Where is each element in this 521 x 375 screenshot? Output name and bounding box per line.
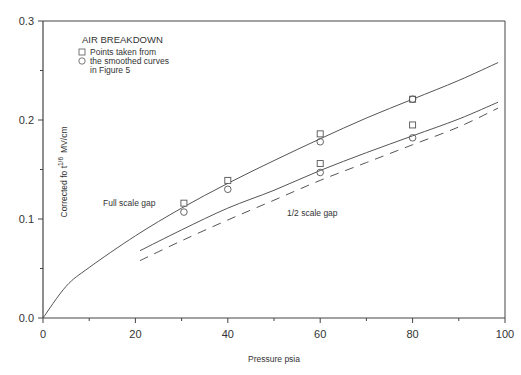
- data-markers: [181, 96, 416, 215]
- curve-line: [43, 63, 498, 318]
- y-axis-title-sup: 1/6: [57, 157, 64, 166]
- y-tick-label: 0.3: [19, 15, 34, 27]
- y-axis-title: Corrected fo t1/6MV/cm: [57, 127, 69, 218]
- x-tick-label: 80: [406, 328, 418, 340]
- legend-circle-marker-icon: [79, 58, 85, 64]
- y-axis-title-unit: MV/cm: [59, 127, 69, 153]
- x-tick-label: 0: [40, 328, 46, 340]
- curves: [43, 63, 498, 318]
- x-tick-label: 20: [129, 328, 141, 340]
- y-tick-label: 0.0: [19, 312, 34, 324]
- y-tick-label: 0.2: [19, 114, 34, 126]
- svg-text:Corrected fo t1/6MV/cm: Corrected fo t1/6MV/cm: [57, 127, 69, 218]
- legend-square-marker-icon: [79, 49, 85, 55]
- curve-line: [140, 102, 498, 251]
- annotation-full-scale-gap: Full scale gap: [103, 198, 156, 208]
- x-axis-title: Pressure psia: [248, 354, 300, 364]
- square-marker-icon: [317, 161, 323, 167]
- square-marker-icon: [410, 122, 416, 128]
- square-marker-icon: [225, 177, 231, 183]
- x-tick-label: 100: [496, 328, 514, 340]
- x-tick-label: 40: [222, 328, 234, 340]
- circle-marker-icon: [181, 209, 188, 216]
- circle-marker-icon: [225, 186, 232, 193]
- circle-marker-icon: [317, 138, 324, 145]
- square-marker-icon: [181, 200, 187, 206]
- legend-entry-3: in Figure 5: [90, 65, 130, 75]
- y-tick-label: 0.1: [19, 213, 34, 225]
- chart: 0204060801000.00.10.20.3 AIR BREAKDOWN P…: [0, 0, 521, 375]
- annotation-half-scale-gap: 1/2 scale gap: [287, 208, 338, 218]
- square-marker-icon: [317, 131, 323, 137]
- legend-title: AIR BREAKDOWN: [82, 34, 163, 45]
- x-tick-label: 60: [314, 328, 326, 340]
- legend: AIR BREAKDOWN Points taken from the smoo…: [79, 34, 169, 75]
- y-axis-title-main: Corrected fo t: [59, 165, 69, 217]
